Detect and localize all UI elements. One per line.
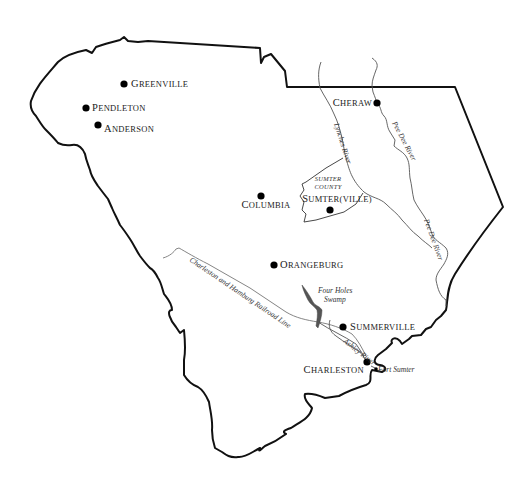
city-cheraw: CHERAW <box>333 97 381 108</box>
pee-dee-river <box>377 103 448 306</box>
sumter-county-label: SUMTER COUNTY <box>314 175 342 190</box>
feature-label-fort-sumter: Fort Sumter <box>377 365 415 374</box>
city-dot-icon <box>339 323 346 330</box>
city-sumterville: SUMTER(VILLE) <box>302 193 372 214</box>
city-anderson: ANDERSON <box>94 121 154 134</box>
feature-label-four-holes-swamp: Four HolesSwamp <box>317 286 352 304</box>
city-dot-icon <box>326 206 333 213</box>
county-label-line2: COUNTY <box>314 183 342 190</box>
city-label: ANDERSON <box>104 123 154 134</box>
south-carolina-map: GREENVILLEPENDLETONANDERSONCHERAWCOLUMBI… <box>0 0 519 485</box>
city-label: PENDLETON <box>92 102 146 113</box>
city-label: COLUMBIA <box>241 199 291 210</box>
feature-label-charleston-hamburg-railroad: Charleston and Hamburg Railroad Line <box>188 255 293 330</box>
city-label: GREENVILLE <box>131 78 188 89</box>
city-dot-icon <box>257 192 264 199</box>
city-orangeburg: ORANGEBURG <box>270 259 343 270</box>
city-dot-icon <box>94 121 101 128</box>
county-label-line1: SUMTER <box>315 175 342 182</box>
city-pendleton: PENDLETON <box>82 102 145 113</box>
city-dot-icon <box>270 261 277 268</box>
city-label: CHARLESTON <box>304 364 364 375</box>
city-dot-icon <box>120 80 127 87</box>
city-charleston: CHARLESTON <box>304 358 371 375</box>
city-dot-icon <box>82 104 89 111</box>
city-layer: GREENVILLEPENDLETONANDERSONCHERAWCOLUMBI… <box>82 78 415 375</box>
city-label: SUMMERVILLE <box>350 321 415 332</box>
city-columbia: COLUMBIA <box>241 192 291 210</box>
feature-label-pee-dee-river-lower: Pee Dee River <box>422 217 446 262</box>
pee-dee-river-north <box>372 58 377 103</box>
city-summerville: SUMMERVILLE <box>339 321 415 332</box>
feature-label-pee-dee-river-upper: Pee Dee River <box>390 119 419 162</box>
city-label: ORANGEBURG <box>280 259 343 270</box>
city-label: SUMTER(VILLE) <box>302 193 372 204</box>
city-dot-icon <box>373 99 380 106</box>
city-label: CHERAW <box>333 97 372 108</box>
feature-label-ashley-river: Ashley River <box>341 336 377 367</box>
city-greenville: GREENVILLE <box>120 78 188 89</box>
